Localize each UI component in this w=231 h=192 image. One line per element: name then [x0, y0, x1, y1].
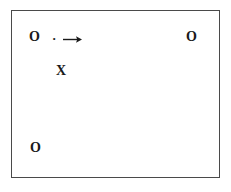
mark-dot-icon: · [52, 32, 56, 45]
diagram-border: O · O X O [11, 10, 220, 178]
mark-letter-o-top-right: O [186, 30, 197, 44]
figure-canvas: O · O X O [0, 0, 231, 192]
mark-letter-o-bottom-left: O [30, 141, 41, 155]
arrow-right-icon [63, 35, 83, 44]
mark-letter-x-center: X [56, 64, 66, 78]
mark-letter-o-top-left: O [29, 30, 40, 44]
